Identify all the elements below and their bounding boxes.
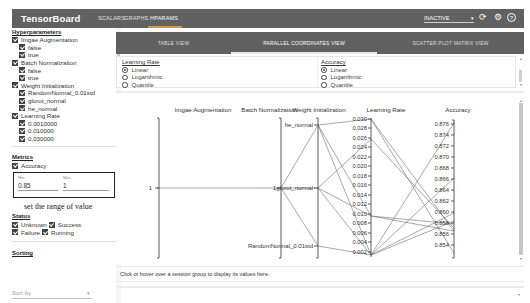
hparam-checkbox-weight-initialization[interactable]: Weight Initialization <box>12 82 116 90</box>
svg-text:0.876: 0.876 <box>434 121 449 127</box>
radio-logarithmic[interactable]: Logarithmic <box>122 74 163 82</box>
checkbox-checked-icon <box>12 37 18 43</box>
axis-weight-initialization <box>314 118 318 258</box>
scroll-down-icon[interactable]: ▾ <box>518 292 520 297</box>
section-divider <box>116 91 524 93</box>
svg-text:0.002: 0.002 <box>352 249 367 255</box>
radio-unselected-icon <box>122 82 128 88</box>
sidebar: Hyperparameters Imgae Augmentation false… <box>12 28 116 303</box>
metric-max-field[interactable]: Max 1 <box>63 175 109 195</box>
refresh-icon[interactable]: ⟳ <box>477 12 488 23</box>
main-content: TABLE VIEW PARALLEL COORDINATES VIEW SCA… <box>116 28 524 303</box>
hparam-checkbox-learning-rate[interactable]: Learning Rate <box>12 112 116 120</box>
parallel-coordinates-chart[interactable]: Imgae Augmentation Batch Normalization W… <box>116 94 516 264</box>
learning-rate-scale-title: Learning Rate <box>122 59 163 65</box>
metrics-section: Metrics Accuracy <box>12 154 116 170</box>
checkbox-checked-icon <box>19 44 25 50</box>
checkbox-checked-icon <box>12 163 18 169</box>
help-icon[interactable]: ? <box>507 13 516 22</box>
svg-text:0.014: 0.014 <box>352 192 367 198</box>
status-checkbox-failure[interactable]: Failure <box>12 229 40 237</box>
metrics-title: Metrics <box>12 154 116 160</box>
status-checkbox-running[interactable]: Running <box>42 229 74 237</box>
checkbox-checked-icon <box>19 105 25 111</box>
nav-tab-scalars[interactable]: SCALARS <box>98 15 125 21</box>
nav-tab-graphs[interactable]: GRAPHS <box>124 15 148 21</box>
status-section: Status Unknown Success Failure Running <box>12 213 116 236</box>
run-selector[interactable]: INACTIVE ▾ <box>424 12 474 23</box>
hparam-value-checkbox[interactable]: he_normal <box>12 104 116 112</box>
svg-text:0.006: 0.006 <box>352 230 367 236</box>
scroll-down-icon[interactable]: ▾ <box>518 82 524 87</box>
active-view-indicator <box>231 52 377 54</box>
svg-text:0.010: 0.010 <box>352 211 367 217</box>
scroll-up-icon[interactable]: ▴ <box>518 56 524 61</box>
radio-linear[interactable]: Linear <box>321 66 362 74</box>
metric-checkbox-accuracy[interactable]: Accuracy <box>12 162 116 170</box>
radio-quantile[interactable]: Quantile <box>122 81 163 89</box>
checkbox-checked-icon <box>19 136 25 142</box>
accuracy-scale-title: Accuracy <box>321 59 362 65</box>
max-input[interactable]: 1 <box>63 182 109 191</box>
svg-text:0.008: 0.008 <box>352 220 367 226</box>
checkbox-checked-icon <box>19 52 25 58</box>
hparam-value-checkbox[interactable]: false <box>12 66 116 74</box>
tab-table-view[interactable]: TABLE VIEW <box>116 32 231 54</box>
svg-text:0.866: 0.866 <box>434 176 449 182</box>
checkbox-checked-icon <box>19 120 25 126</box>
status-checkbox-success[interactable]: Success <box>49 221 81 229</box>
tab-scatter-plot-matrix-view[interactable]: SCATTER PLOT MATRIX VIEW <box>377 32 524 54</box>
chevron-down-icon: ▾ <box>87 290 90 296</box>
settings-icon[interactable]: ⚙ <box>492 12 503 23</box>
run-selector-value: INACTIVE <box>424 15 449 21</box>
metric-min-field[interactable]: Min 0.85 <box>18 175 58 195</box>
scrollbar-thumb[interactable] <box>519 103 523 255</box>
scroll-down-icon[interactable]: ▾ <box>518 256 524 261</box>
svg-text:0.856: 0.856 <box>434 231 449 237</box>
scale-panel-scrollbar[interactable]: ▴ ▾ <box>518 56 524 88</box>
hparam-value-checkbox[interactable]: false <box>12 44 116 52</box>
svg-text:0.862: 0.862 <box>434 198 449 204</box>
radio-quantile[interactable]: Quantile <box>321 81 362 89</box>
learning-rate-scale-group: Learning Rate Linear Logarithmic Quantil… <box>122 59 163 89</box>
svg-text:0.874: 0.874 <box>434 132 449 138</box>
sort-by-select[interactable]: Sort by ▾ <box>12 290 92 299</box>
svg-text:0.870: 0.870 <box>434 154 449 160</box>
svg-text:0.026: 0.026 <box>352 135 367 141</box>
radio-unselected-icon <box>321 82 327 88</box>
parallel-coordinates-svg: Imgae Augmentation Batch Normalization W… <box>116 94 516 264</box>
section-divider <box>12 146 116 147</box>
radio-selected-icon <box>122 67 128 73</box>
max-label: Max <box>63 175 109 180</box>
checkbox-checked-icon <box>12 60 18 66</box>
radio-linear[interactable]: Linear <box>122 66 163 74</box>
hyperparameters-section: Hyperparameters Imgae Augmentation false… <box>12 29 116 142</box>
min-input[interactable]: 0.85 <box>18 182 58 191</box>
checkbox-checked-icon <box>42 229 48 235</box>
section-divider <box>116 286 524 288</box>
radio-logarithmic[interactable]: Logarithmic <box>321 74 362 82</box>
hparam-value-checkbox[interactable]: true <box>12 51 116 59</box>
radio-unselected-icon <box>321 75 327 81</box>
tick-label: RandomNormal_0.01std <box>248 243 313 249</box>
tick-label: 1 <box>149 185 153 191</box>
status-checkbox-unknown[interactable]: Unknown <box>12 221 47 229</box>
sorting-title: Sorting <box>12 250 116 256</box>
learning-rate-tick-labels: 0.030 0.028 0.026 0.024 0.022 0.020 0.01… <box>352 116 367 255</box>
scrollbar-thumb[interactable] <box>519 70 522 82</box>
hparam-value-checkbox[interactable]: RandomNormal_0.01std <box>12 89 116 97</box>
tab-parallel-coordinates-view[interactable]: PARALLEL COORDINATES VIEW <box>231 32 377 54</box>
nav-tab-hparams[interactable]: HPARAMS <box>150 15 178 21</box>
hparam-value-checkbox[interactable]: glorot_normal <box>12 97 116 105</box>
tick-label: glorot_normal <box>276 185 313 191</box>
chevron-down-icon: ▾ <box>471 15 474 21</box>
hparam-checkbox-batch-normalization[interactable]: Batch Normalization <box>12 59 116 67</box>
hparam-checkbox-imgae-augmentation[interactable]: Imgae Augmentation <box>12 36 116 44</box>
chart-scrollbar[interactable]: ▴ ▾ <box>518 98 524 264</box>
hparam-value-checkbox[interactable]: 0.0010000 <box>12 120 116 128</box>
hparam-value-checkbox[interactable]: true <box>12 74 116 82</box>
axis-title-imgae-augmentation: Imgae Augmentation <box>175 106 232 113</box>
hparam-value-checkbox[interactable]: 0.010000 <box>12 127 116 135</box>
hparam-value-checkbox[interactable]: 0.030000 <box>12 135 116 143</box>
radio-unselected-icon <box>122 75 128 81</box>
